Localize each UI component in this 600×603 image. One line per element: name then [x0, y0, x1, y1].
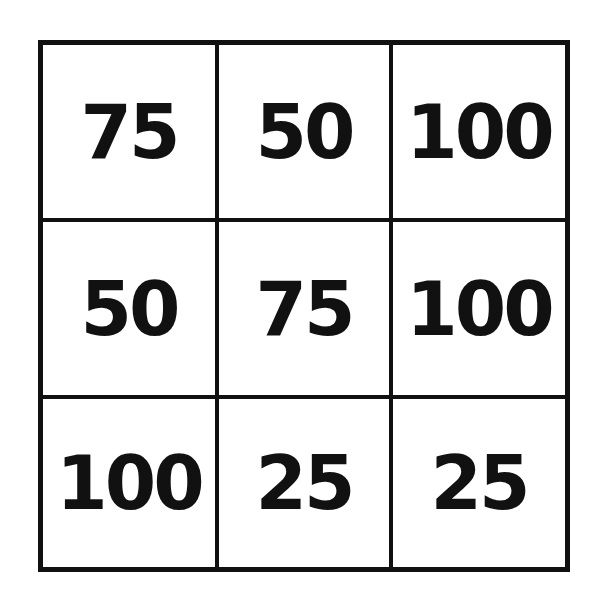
grid-cell-r2-c3: 100 [393, 222, 565, 399]
grid-cell-r1-c3: 100 [393, 45, 565, 222]
grid-cell-r3-c2: 25 [219, 399, 393, 567]
grid-cell-r2-c2: 75 [219, 222, 393, 399]
grid-cell-r1-c1: 75 [43, 45, 219, 222]
grid-cell-r1-c2: 50 [219, 45, 393, 222]
grid-cell-r3-c1: 100 [43, 399, 219, 567]
grid-cell-r2-c1: 50 [43, 222, 219, 399]
number-grid: 75 50 100 50 75 100 100 25 25 [38, 40, 570, 572]
grid-cell-r3-c3: 25 [393, 399, 565, 567]
